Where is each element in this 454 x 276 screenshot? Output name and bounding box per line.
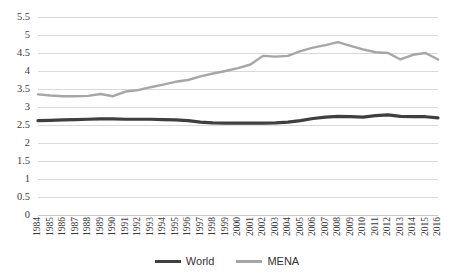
x-axis-tick-text: 1990	[108, 217, 118, 236]
x-axis-tick-text: 1999	[221, 217, 231, 236]
y-axis-tick-label: 1	[25, 174, 30, 185]
legend-swatch-icon	[236, 260, 262, 264]
x-axis-tick-text: 2000	[233, 217, 243, 236]
y-axis-tick-label: 4.5	[17, 48, 30, 59]
x-axis-tick-text: 1993	[146, 217, 156, 236]
legend-label: World	[186, 256, 215, 267]
line-chart: 00.511.522.533.544.555.5 198419851986198…	[0, 0, 454, 276]
x-axis-tick-text: 1994	[158, 217, 168, 236]
y-axis-tick-label: 2	[25, 138, 30, 149]
x-axis-tick-text: 1988	[83, 217, 93, 236]
x-axis-tick-text: 2009	[346, 217, 356, 236]
y-axis-tick-label: 0	[25, 210, 30, 221]
y-axis-tick-label: 5	[25, 30, 30, 41]
x-axis-tick-text: 2015	[421, 217, 431, 236]
x-axis-tick-text: 1997	[196, 217, 206, 236]
chart-legend: WorldMENA	[0, 256, 454, 267]
x-axis-tick-text: 2001	[246, 217, 256, 236]
legend-item-mena[interactable]: MENA	[236, 256, 299, 267]
series-line-world	[38, 115, 438, 123]
x-axis-tick-text: 2007	[321, 217, 331, 236]
x-axis-tick-text: 2005	[296, 217, 306, 236]
x-axis-tick-text: 1991	[121, 217, 131, 236]
x-axis-tick-text: 2003	[271, 217, 281, 236]
y-axis-tick-label: 0.5	[17, 192, 30, 203]
x-axis-tick-text: 1996	[183, 217, 193, 236]
x-axis-tick-text: 2012	[383, 217, 393, 236]
plot-area	[38, 17, 438, 215]
y-axis: 00.511.522.533.544.555.5	[0, 17, 34, 215]
x-axis: 1984198519861987198819891990199119921993…	[38, 217, 438, 257]
x-axis-tick-text: 1989	[96, 217, 106, 236]
x-axis-tick-text: 1995	[171, 217, 181, 236]
x-axis-tick-text: 2008	[333, 217, 343, 236]
x-axis-tick-text: 2004	[283, 217, 293, 236]
x-axis-tick-text: 1984	[33, 217, 43, 236]
x-axis-tick-label: 2016	[431, 217, 445, 240]
x-axis-tick-text: 2010	[358, 217, 368, 236]
y-axis-tick-label: 5.5	[17, 12, 30, 23]
y-axis-tick-label: 3	[25, 102, 30, 113]
x-axis-tick-text: 2002	[258, 217, 268, 236]
legend-swatch-icon	[155, 260, 181, 264]
x-axis-tick-text: 2011	[371, 217, 381, 236]
x-axis-tick-text: 2016	[433, 217, 443, 236]
y-axis-tick-label: 1.5	[17, 156, 30, 167]
x-axis-tick-text: 1998	[208, 217, 218, 236]
y-axis-tick-label: 3.5	[17, 84, 30, 95]
y-axis-tick-label: 4	[25, 66, 30, 77]
legend-item-world[interactable]: World	[155, 256, 215, 267]
series-layer	[38, 17, 438, 215]
x-axis-tick-text: 2014	[408, 217, 418, 236]
y-axis-tick-label: 2.5	[17, 120, 30, 131]
x-axis-tick-text: 1986	[58, 217, 68, 236]
x-axis-tick-text: 2013	[396, 217, 406, 236]
x-axis-tick-text: 1985	[46, 217, 56, 236]
x-axis-tick-text: 2006	[308, 217, 318, 236]
series-line-mena	[38, 42, 438, 96]
x-axis-tick-text: 1987	[71, 217, 81, 236]
legend-label: MENA	[267, 256, 299, 267]
x-axis-tick-text: 1992	[133, 217, 143, 236]
